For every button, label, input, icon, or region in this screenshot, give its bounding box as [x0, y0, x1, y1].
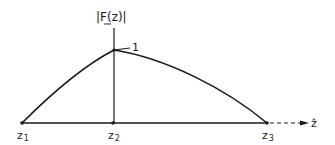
point-z2-label: z2 [108, 129, 120, 143]
peak-value-label: 1 [132, 41, 139, 54]
curve-falling [114, 50, 267, 123]
y-axis-label: |F(z)| [96, 10, 127, 24]
point-z3-label: z3 [262, 129, 274, 143]
peak-marker [112, 48, 115, 51]
point-z3-marker [265, 121, 269, 125]
point-z2-marker [111, 121, 115, 125]
z-axis-arrow-icon [300, 121, 309, 126]
point-z1-label: z1 [17, 129, 29, 143]
peak-tick [114, 48, 130, 50]
x-axis-label: ẑ [311, 117, 317, 130]
point-z1-marker [20, 121, 24, 125]
curve-rising [22, 50, 114, 123]
diagram-canvas: |F(z)| 1 z1 z2 z3 ẑ [0, 0, 335, 145]
